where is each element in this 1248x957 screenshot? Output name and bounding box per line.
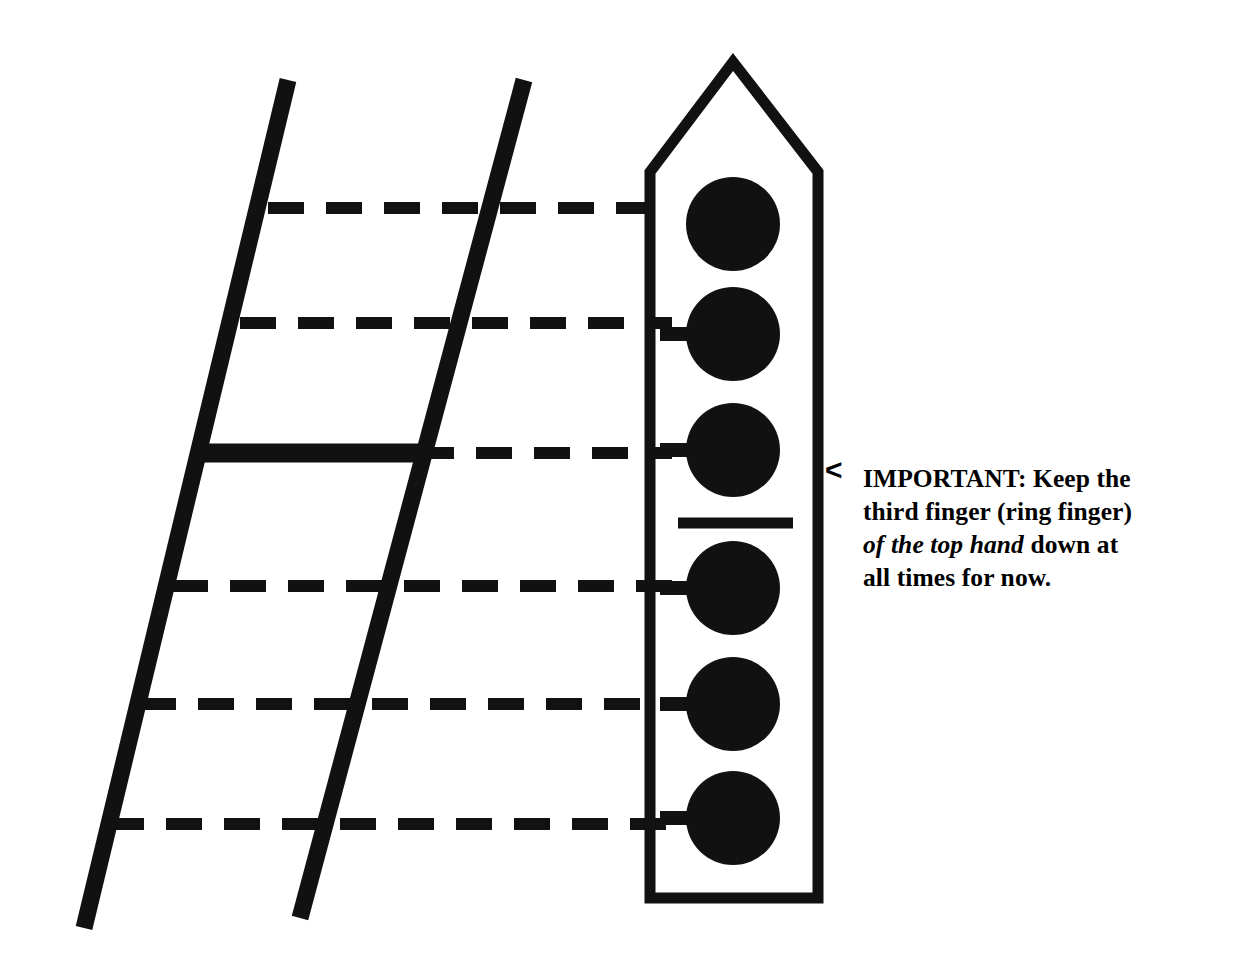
callout-line-1: IMPORTANT: Keep the: [863, 464, 1131, 493]
figure-canvas: < IMPORTANT: Keep the third finger (ring…: [0, 0, 1248, 957]
tuning-peg-3: [686, 403, 780, 497]
callout-line-3-tail: down at: [1024, 530, 1118, 559]
tuning-peg-6: [686, 771, 780, 865]
tuning-peg-1: [686, 177, 780, 271]
callout-line-4: all times for now.: [863, 563, 1051, 592]
callout-emphasis: of the top hand: [863, 530, 1024, 559]
callout-note: IMPORTANT: Keep the third finger (ring f…: [863, 462, 1233, 594]
tuning-peg-5: [686, 657, 780, 751]
callout-arrow-icon: <: [825, 455, 843, 485]
tuning-peg-2: [686, 287, 780, 381]
tuning-peg-4: [686, 541, 780, 635]
callout-line-2: third finger (ring finger): [863, 497, 1132, 526]
